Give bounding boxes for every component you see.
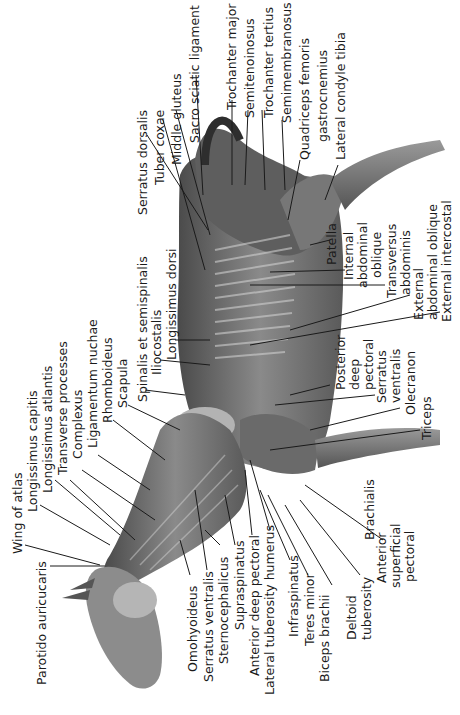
label-transversus-abdominis-1: Transversus xyxy=(385,224,399,298)
label-external-abdominal-oblique-2: abdominal oblique xyxy=(426,204,440,320)
label-deltoid-tuberosity-2: tuberosity xyxy=(360,577,374,640)
label-iliocostalis: Iliocostalis xyxy=(150,310,164,375)
label-anterior-superficial-pectoral-1: Anterior xyxy=(375,533,389,583)
label-tuber-coxae: Tuber coxae xyxy=(153,110,167,185)
label-deltoid-tuberosity-1: Deltoid xyxy=(345,595,359,640)
label-gastrocnemius: gastrocnemius xyxy=(316,50,330,142)
label-serratus-ventralis-1: Serratus xyxy=(375,350,389,403)
label-teres-minor: Teres minor xyxy=(303,573,317,646)
label-serratus-dorsalis: Serratus dorsalis xyxy=(136,110,150,215)
label-brachialis: Brachialis xyxy=(363,479,377,540)
label-olecranon: Olecranon xyxy=(404,351,418,415)
label-spinalis-et-semispinalis: Spinalis et semispinalis xyxy=(136,256,150,402)
label-biceps-brachii: Biceps brachii xyxy=(318,594,332,682)
label-middle-gluteus: Middle gluteus xyxy=(170,73,184,165)
label-triceps: Triceps xyxy=(420,397,434,440)
label-internal-abdominal-oblique-1: Internal xyxy=(342,232,356,280)
label-internal-abdominal-oblique-3: oblique xyxy=(370,232,384,278)
label-longissimus-dorsi: Longissimus dorsi xyxy=(165,248,179,360)
label-sacro-sciatic-ligament: Sacro sciatic ligament xyxy=(188,5,202,143)
label-lateral-tuberosity-humerus: Lateral tuberosity humerus xyxy=(263,525,277,695)
label-trochanter-major: Trochanter major xyxy=(225,4,239,111)
label-anterior-superficial-pectoral-3: pectoral xyxy=(403,531,417,582)
label-ligamentum-nuchae: Ligamentum nuchae xyxy=(86,319,100,448)
label-semimembranosus: Semimembranosus xyxy=(280,2,294,123)
label-omohyoideus: Omohyoideus xyxy=(186,586,200,672)
label-longissimus-capitis: Longissimus capitis xyxy=(26,390,40,512)
label-parotido-auricularis: Parotido auricucaris xyxy=(35,561,49,685)
anatomy-figure: Serratus dorsalis Tuber coxae Middle glu… xyxy=(0,0,460,715)
label-infraspinatus: Infraspinatus xyxy=(287,555,301,637)
label-supraspinatus: Supraspinatus xyxy=(233,541,247,630)
label-sternocephalicus: Sternocephalicus xyxy=(217,557,231,664)
label-internal-abdominal-oblique-2: abdominal xyxy=(356,222,370,288)
label-semitenoinosus: Semitenoinosus xyxy=(243,19,257,118)
label-anterior-superficial-pectoral-2: superficial xyxy=(389,523,403,588)
label-quadriceps-femoris: Quadriceps femoris xyxy=(298,38,312,160)
label-serratus-ventralis-2: ventralis xyxy=(389,349,403,403)
label-external-abdominal-oblique-1: External xyxy=(412,268,426,320)
label-patella: Patella xyxy=(325,223,339,265)
label-rhomboideus: Rhomboideus xyxy=(101,337,115,423)
label-posterior-deep-pectoral-1: Posterior xyxy=(334,335,348,390)
label-complexus: Complexus xyxy=(71,390,85,459)
label-scapula: Scapula xyxy=(116,359,130,408)
label-external-intercostal: External intercostal xyxy=(440,200,454,322)
label-anterior-deep-pectoral: Anterior deep pectoral xyxy=(248,535,262,676)
label-lateral-condyle-tibia: Lateral condyle tibia xyxy=(334,32,348,160)
label-trochanter-tertius: Trochanter tertius xyxy=(262,7,276,118)
label-transverse-processes: Transverse processes xyxy=(56,341,70,475)
label-posterior-deep-pectoral-2: deep xyxy=(348,359,362,390)
label-wing-of-atlas: Wing of atlas xyxy=(11,472,25,554)
label-longissimus-atlantis: Longissimus atlantis xyxy=(41,366,55,493)
label-serratus-ventralis-neck: Serratus ventralis xyxy=(202,571,216,682)
